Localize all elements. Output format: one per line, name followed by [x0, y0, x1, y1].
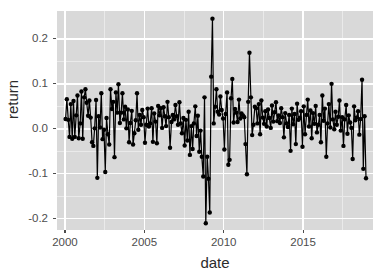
data-point — [316, 123, 320, 127]
data-point — [116, 82, 120, 86]
data-point — [167, 115, 171, 119]
data-point — [225, 90, 229, 94]
data-point — [350, 157, 354, 161]
data-point — [102, 128, 106, 132]
data-point — [111, 100, 115, 104]
data-point — [287, 113, 291, 117]
data-point — [278, 121, 282, 125]
data-point — [209, 74, 213, 78]
data-point — [108, 87, 112, 91]
data-point — [145, 106, 149, 110]
data-point — [362, 114, 366, 118]
data-point — [347, 113, 351, 117]
data-point — [75, 93, 79, 97]
data-point — [319, 140, 323, 144]
x-axis-title: date — [57, 255, 373, 270]
data-point — [115, 110, 119, 114]
data-point — [299, 109, 303, 113]
data-point — [324, 155, 328, 159]
data-point — [192, 121, 196, 125]
data-point — [231, 120, 235, 124]
data-point — [168, 146, 172, 150]
data-point — [180, 131, 184, 135]
data-point — [218, 94, 222, 98]
data-point — [222, 147, 226, 151]
data-point — [79, 89, 83, 93]
data-point — [140, 108, 144, 112]
data-point — [107, 142, 111, 146]
data-point — [160, 126, 164, 130]
data-point — [254, 106, 258, 110]
data-point — [110, 107, 114, 111]
data-point — [91, 144, 95, 148]
data-point — [198, 128, 202, 132]
data-point — [136, 128, 140, 132]
data-point — [196, 114, 200, 118]
data-point — [357, 132, 361, 136]
data-point — [333, 110, 337, 114]
data-point — [120, 91, 124, 95]
data-point — [320, 93, 324, 97]
data-point — [131, 142, 135, 146]
x-axis-tick-label: 2015 — [273, 237, 333, 249]
data-point — [303, 132, 307, 136]
data-point — [274, 100, 278, 104]
data-point — [276, 113, 280, 117]
data-point — [223, 112, 227, 116]
data-point — [208, 210, 212, 214]
data-point — [302, 104, 306, 108]
data-point — [341, 144, 345, 148]
data-point — [364, 176, 368, 180]
y-axis-tick-label: 0.2 — [4, 33, 48, 45]
data-point — [258, 132, 262, 136]
data-point — [213, 105, 217, 109]
data-point — [234, 110, 238, 114]
data-point — [266, 107, 270, 111]
data-point — [78, 121, 82, 125]
data-point — [221, 116, 225, 120]
data-point — [98, 125, 102, 129]
data-point — [148, 121, 152, 125]
data-point — [339, 128, 343, 132]
data-point — [188, 153, 192, 157]
data-point — [83, 87, 87, 91]
data-point — [214, 87, 218, 91]
y-axis-tick-mark — [53, 173, 56, 174]
data-point — [190, 147, 194, 151]
y-axis-tick-mark — [53, 83, 56, 84]
data-point — [352, 104, 356, 108]
data-point — [112, 155, 116, 159]
data-point — [259, 98, 263, 102]
data-point — [173, 103, 177, 107]
chart-root: 0.20.10.0-0.1-0.2 2000200520102015 retur… — [0, 0, 382, 279]
data-point — [161, 105, 165, 109]
data-point — [288, 149, 292, 153]
y-axis-tick-mark — [53, 128, 56, 129]
data-point — [361, 167, 365, 171]
data-point — [343, 117, 347, 121]
data-point — [66, 118, 70, 122]
data-point — [307, 124, 311, 128]
data-point — [331, 117, 335, 121]
data-point — [153, 119, 157, 123]
data-point — [269, 126, 273, 130]
data-point — [283, 111, 287, 115]
data-point — [149, 106, 153, 110]
data-point — [87, 98, 91, 102]
data-point — [310, 136, 314, 140]
data-point — [94, 98, 98, 102]
data-point — [279, 106, 283, 110]
data-point — [200, 155, 204, 159]
data-point — [179, 121, 183, 125]
y-axis-tick-mark — [53, 38, 56, 39]
y-axis-tick-label: -0.1 — [4, 168, 48, 180]
data-point — [235, 120, 239, 124]
data-point — [270, 103, 274, 107]
data-point — [251, 123, 255, 127]
data-point — [332, 127, 336, 131]
y-axis-tick-mark — [53, 218, 56, 219]
data-point — [246, 100, 250, 104]
data-point — [336, 114, 340, 118]
data-point — [290, 106, 294, 110]
data-point — [329, 82, 333, 86]
